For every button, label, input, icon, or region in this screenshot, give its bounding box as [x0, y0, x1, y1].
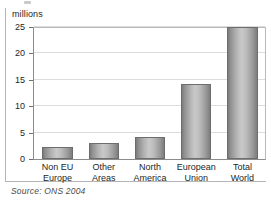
y-tick-mark — [29, 133, 33, 134]
y-axis-unit-label: millions — [12, 9, 43, 19]
y-tick-mark — [29, 27, 33, 28]
bar — [181, 84, 211, 160]
chart-figure: millions 0510152025 Non EUEuropeOtherAre… — [0, 0, 271, 203]
bar — [89, 143, 119, 159]
y-tick-label: 0 — [20, 154, 25, 164]
category-label: Non EUEurope — [35, 162, 81, 183]
category-label: OtherAreas — [81, 162, 127, 183]
bar-slot — [227, 27, 257, 159]
category-label-line: European — [173, 162, 219, 173]
category-label: EuropeanUnion — [173, 162, 219, 183]
y-axis-ticks: 0510152025 — [0, 27, 33, 160]
bar-slot — [42, 27, 72, 159]
category-label: NorthAmerica — [127, 162, 173, 183]
category-label-line: World — [219, 173, 265, 184]
category-label-line: Union — [173, 173, 219, 184]
category-label-line: Other — [81, 162, 127, 173]
bar-slot — [181, 27, 211, 159]
category-label-line: America — [127, 173, 173, 184]
category-label-line: North — [127, 162, 173, 173]
y-tick-label: 25 — [15, 22, 25, 32]
category-label-line: Total — [219, 162, 265, 173]
bar — [42, 147, 72, 159]
y-tick-mark — [29, 80, 33, 81]
clipped-glyph-artifact — [24, 1, 31, 4]
y-tick-mark — [29, 106, 33, 107]
bar-slot — [89, 27, 119, 159]
category-label-line: Europe — [35, 173, 81, 184]
y-tick-mark — [29, 53, 33, 54]
bar — [227, 27, 257, 159]
y-tick-label: 20 — [15, 48, 25, 58]
category-label: TotalWorld — [219, 162, 265, 183]
y-tick-label: 10 — [15, 101, 25, 111]
y-tick-mark — [29, 159, 33, 160]
bar — [135, 137, 165, 159]
bar-series — [35, 27, 266, 159]
source-caption: Source: ONS 2004 — [11, 186, 86, 196]
bar-slot — [135, 27, 165, 159]
x-axis-category-labels: Non EUEuropeOtherAreasNorthAmericaEurope… — [35, 162, 266, 184]
category-label-line: Non EU — [35, 162, 81, 173]
y-tick-label: 15 — [15, 75, 25, 85]
y-tick-label: 5 — [20, 128, 25, 138]
category-label-line: Areas — [81, 173, 127, 184]
